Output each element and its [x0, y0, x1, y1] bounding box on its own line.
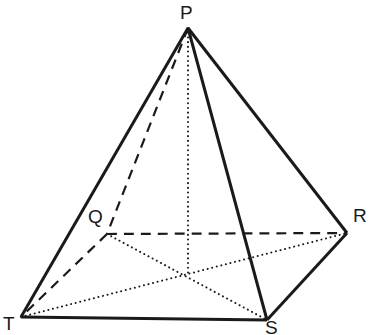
- edge-P-R: [188, 28, 347, 233]
- edge-P-T: [21, 28, 188, 317]
- pyramid-svg: [0, 0, 369, 335]
- edge-S-R: [267, 233, 347, 320]
- pyramid-edges-group: [21, 28, 347, 320]
- pyramid-diagram: PQRST: [0, 0, 369, 335]
- edge-T-S: [21, 317, 267, 320]
- diagonal-Q-S: [107, 234, 267, 320]
- edge-Q-T: [21, 234, 107, 317]
- edge-Q-R: [107, 233, 347, 234]
- vertex-label-t: T: [3, 314, 15, 333]
- vertex-label-r: R: [353, 206, 367, 225]
- construction-lines-group: [21, 28, 347, 320]
- vertex-label-p: P: [180, 3, 193, 22]
- vertex-label-q: Q: [88, 207, 103, 226]
- edge-P-Q: [107, 28, 188, 234]
- diagonal-T-R: [21, 233, 347, 317]
- edge-P-S: [188, 28, 267, 320]
- vertex-label-s: S: [265, 318, 278, 335]
